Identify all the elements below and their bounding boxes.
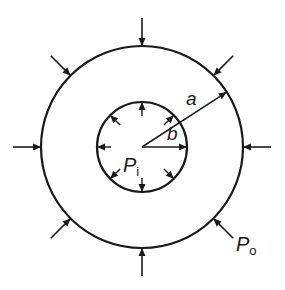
radius-a-arrow-icon <box>142 93 226 147</box>
inner-pressure-arrow-icon <box>111 116 120 125</box>
outer-pressure-arrow-icon <box>214 219 233 238</box>
inner-pressure-arrow-icon <box>164 169 173 178</box>
label-outer-pressure: Po <box>236 234 257 257</box>
outer-pressure-arrow-icon <box>214 56 233 75</box>
outer-pressure-symbol: P <box>236 233 249 255</box>
radius-lines <box>142 93 226 147</box>
outer-pressure-subscript: o <box>249 243 256 258</box>
inner-pressure-symbol: P <box>123 154 136 176</box>
label-outer-radius-a: a <box>186 89 197 108</box>
label-inner-pressure: Pi <box>123 155 139 178</box>
diagram-stage: a b Pi Po <box>0 0 285 290</box>
inner-pressure-subscript: i <box>136 164 139 179</box>
outer-pressure-arrow-icon <box>51 219 70 238</box>
label-inner-radius-b: b <box>167 124 178 143</box>
outer-pressure-arrow-icon <box>51 56 70 75</box>
inner-pressure-arrow-icon <box>111 169 120 178</box>
